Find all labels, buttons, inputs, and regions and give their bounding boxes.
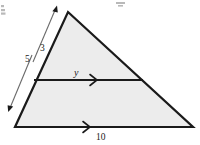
label-full-side: 5	[25, 54, 30, 64]
geometry-diagram-canvas: 3 5 y 10	[0, 0, 200, 145]
label-upper-side: 3	[40, 43, 45, 53]
label-base: 10	[96, 132, 106, 142]
geometry-figure: 3 5 y 10	[0, 0, 200, 145]
label-midsegment: y	[73, 67, 79, 78]
top-center-faint-mark	[116, 2, 125, 7]
problem-number-mark	[1, 5, 6, 15]
